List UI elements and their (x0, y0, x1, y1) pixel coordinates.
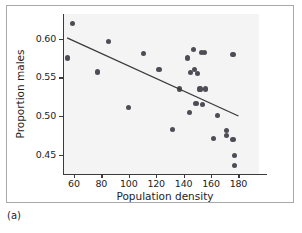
x-tick-mark (74, 174, 75, 178)
x-tick-mark (238, 174, 239, 178)
scatter-point (195, 71, 200, 76)
y-tick-label: 0.45 (0, 149, 56, 160)
y-tick-mark (59, 77, 63, 78)
scatter-point (230, 137, 235, 142)
y-tick-mark (59, 155, 63, 156)
x-tick-label: 60 (68, 178, 80, 189)
x-axis-line (63, 174, 267, 175)
y-axis-title: Proportion males (14, 34, 26, 154)
x-tick-mark (156, 174, 157, 178)
x-tick-label: 120 (147, 178, 165, 189)
x-axis-title: Population density (63, 190, 267, 202)
x-tick-mark (211, 174, 212, 178)
plot-panel-background (63, 14, 259, 174)
panel-caption: (a) (7, 210, 21, 221)
figure-container: 0.450.500.550.60 6080100120140160180 Pro… (0, 0, 302, 233)
scatter-point (197, 86, 202, 91)
scatter-point (202, 50, 207, 55)
scatter-point (185, 55, 190, 60)
scatter-point (232, 163, 237, 168)
scatter-point (230, 52, 235, 57)
y-tick-mark (59, 39, 63, 40)
scatter-point (65, 55, 70, 60)
scatter-point (95, 69, 100, 74)
scatter-point (70, 21, 75, 26)
y-axis-line (63, 14, 64, 174)
x-tick-mark (101, 174, 102, 178)
scatter-point (193, 101, 198, 106)
scatter-point (224, 133, 229, 138)
scatter-point (170, 127, 175, 132)
y-tick-label: 0.50 (0, 110, 56, 121)
y-tick-label: 0.60 (0, 33, 56, 44)
scatter-point (177, 86, 182, 91)
x-tick-label: 160 (202, 178, 220, 189)
x-tick-label: 80 (96, 178, 108, 189)
y-tick-mark (59, 116, 63, 117)
x-tick-label: 100 (120, 178, 138, 189)
scatter-point (203, 86, 208, 91)
scatter-point (156, 67, 161, 72)
x-tick-mark (129, 174, 130, 178)
x-tick-mark (184, 174, 185, 178)
y-axis-tick-labels: 0.450.500.550.60 (0, 0, 56, 233)
y-tick-label: 0.55 (0, 71, 56, 82)
scatter-point (191, 47, 196, 52)
x-tick-label: 180 (230, 178, 248, 189)
scatter-point (232, 153, 237, 158)
x-tick-label: 140 (175, 178, 193, 189)
scatter-point (187, 110, 192, 115)
